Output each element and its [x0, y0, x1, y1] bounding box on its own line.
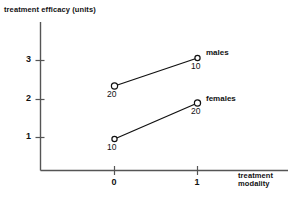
data-point-males-x1	[195, 55, 200, 60]
y-tick-label-3: 3	[17, 55, 31, 64]
point-note-females-x0: 10	[107, 143, 116, 152]
series-line-males	[115, 58, 198, 86]
point-note-males-x1: 10	[191, 62, 200, 71]
interaction-plot: treatment efficacy (units) treatment mod…	[0, 0, 298, 198]
y-tick-label-2: 2	[17, 94, 31, 103]
x-axis-title-line2: modality	[238, 180, 273, 188]
data-point-females-x0	[112, 136, 117, 141]
series-label-males: males	[206, 49, 229, 57]
series-label-females: females	[206, 95, 236, 103]
point-note-females-x1: 20	[191, 107, 200, 116]
x-axis-title: treatment modality	[238, 172, 273, 188]
x-tick-label-1: 1	[190, 178, 204, 187]
y-tick-label-1: 1	[17, 132, 31, 141]
x-tick-label-0: 0	[107, 178, 121, 187]
series-line-females	[115, 103, 198, 139]
plot-canvas	[0, 0, 298, 198]
y-axis-title: treatment efficacy (units)	[4, 6, 96, 14]
point-note-males-x0: 20	[107, 90, 116, 99]
